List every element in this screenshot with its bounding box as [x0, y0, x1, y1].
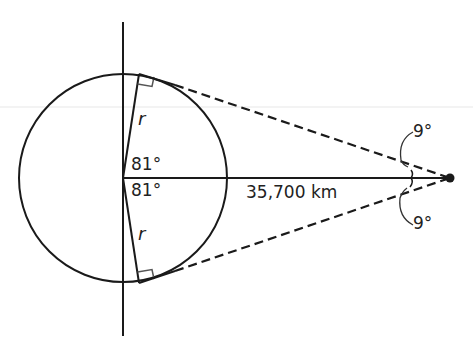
satellite-dot: [446, 174, 455, 183]
tangent-top-solid: [139, 74, 175, 85]
angle-bottom-label: 81°: [131, 182, 161, 199]
angle-arc-top: [411, 170, 413, 178]
satellite-angle-top-label: 9°: [413, 123, 432, 140]
distance-label: 35,700 km: [246, 184, 337, 201]
leader-top: [401, 132, 414, 167]
radius-top-label: r: [138, 110, 145, 128]
diagram-canvas: [0, 0, 473, 358]
tangent-bottom-solid: [139, 271, 175, 283]
angle-top-label: 81°: [131, 156, 161, 173]
radius-bottom-label: r: [138, 225, 145, 243]
satellite-angle-bottom-label: 9°: [413, 215, 432, 232]
angle-arc-bottom: [410, 178, 412, 187]
